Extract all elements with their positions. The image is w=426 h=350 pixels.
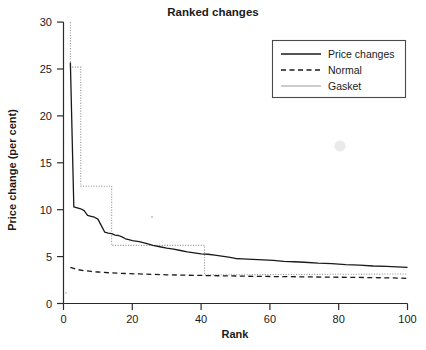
x-tick-label: 80	[333, 313, 345, 325]
x-tick-label: 20	[126, 313, 138, 325]
x-tick-label: 60	[264, 313, 276, 325]
x-tick-label: 40	[195, 313, 207, 325]
scan-speck	[151, 216, 153, 218]
y-tick-label: 25	[40, 63, 52, 75]
chart-figure: Ranked changes Price change (per cent) R…	[0, 0, 426, 350]
ranked-changes-chart: Ranked changes Price change (per cent) R…	[0, 0, 426, 350]
scan-smudge	[335, 141, 346, 152]
chart-legend: Price changes Normal Gasket	[273, 41, 406, 98]
y-tick-label: 5	[46, 251, 52, 263]
x-tick-label: 0	[60, 313, 66, 325]
y-tick-label: 20	[40, 110, 52, 122]
y-tick-label: 0	[46, 298, 52, 310]
y-tick-label: 15	[40, 157, 52, 169]
legend-label-gasket: Gasket	[328, 80, 361, 92]
y-tick-label: 10	[40, 204, 52, 216]
scan-speck	[65, 292, 67, 294]
y-tick-label: 30	[40, 16, 52, 28]
y-axis-title: Price change (per cent)	[6, 109, 18, 231]
x-tick-label: 100	[398, 313, 416, 325]
legend-label-normal: Normal	[328, 64, 362, 76]
legend-label-price-changes: Price changes	[328, 48, 395, 60]
chart-title: Ranked changes	[167, 6, 258, 18]
x-axis-title: Rank	[222, 328, 250, 340]
